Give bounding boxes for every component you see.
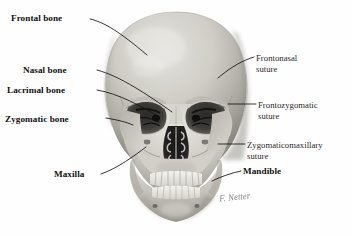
label-frontozygomatic-suture-line1: Frontozygomatic: [258, 100, 318, 111]
leader-frontal-bone: [90, 19, 147, 55]
label-zygomaticomaxillary-suture-line2: suture: [247, 151, 323, 162]
label-zygomatic-bone: Zygomatic bone: [5, 115, 69, 124]
label-nasal-bone: Nasal bone: [23, 66, 67, 75]
label-zygomaticomaxillary-suture: Zygomaticomaxillary suture: [247, 140, 323, 162]
label-frontozygomatic-suture: Frontozygomatic suture: [258, 100, 318, 122]
label-zygomaticomaxillary-suture-line1: Zygomaticomaxillary: [247, 140, 323, 151]
label-mandible: Mandible: [243, 167, 281, 176]
label-frontonasal-suture-line2: suture: [256, 64, 297, 75]
leader-lacrimal-bone: [97, 90, 158, 116]
label-frontozygomatic-suture-line2: suture: [258, 111, 318, 122]
leader-mandible: [212, 171, 241, 181]
leader-maxilla: [101, 147, 146, 174]
label-frontonasal-suture-line1: Frontonasal: [256, 53, 297, 64]
label-maxilla: Maxilla: [54, 170, 84, 179]
label-lacrimal-bone: Lacrimal bone: [7, 86, 65, 95]
leader-zygomatic-bone: [106, 118, 133, 125]
leader-nasal-bone: [97, 70, 172, 112]
skull-anatomy-figure: Frontal bone Nasal bone Lacrimal bone Zy…: [0, 0, 352, 236]
leader-frontonasal-suture: [218, 57, 254, 78]
label-frontonasal-suture: Frontonasal suture: [256, 53, 297, 75]
label-frontal-bone: Frontal bone: [11, 14, 62, 23]
